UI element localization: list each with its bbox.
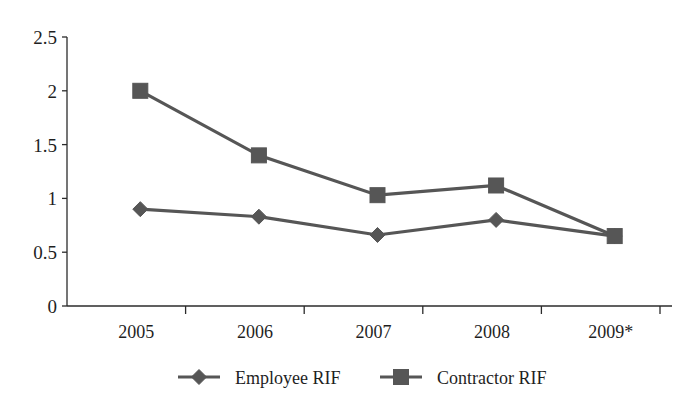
x-axis-tick-label: 2008: [474, 322, 510, 342]
square-marker-icon: [370, 188, 385, 203]
square-marker-icon: [489, 178, 504, 193]
y-axis-tick-label: 1.5: [33, 135, 57, 156]
y-axis-tick-label: 0.5: [33, 242, 57, 263]
square-marker-icon: [394, 370, 409, 385]
chart-background: [0, 0, 684, 412]
square-marker-icon: [607, 229, 622, 244]
square-marker-icon: [133, 83, 148, 98]
y-axis-tick-label: 0: [48, 296, 58, 317]
y-axis-tick-label: 2.5: [33, 27, 57, 48]
line-chart-figure: 00.511.522.5 20052006200720082009* Emplo…: [0, 0, 684, 412]
square-marker-icon: [251, 148, 266, 163]
y-axis-tick-label: 1: [48, 188, 58, 209]
chart-svg: 00.511.522.5 20052006200720082009* Emplo…: [0, 0, 684, 412]
y-axis-tick-label: 2: [48, 81, 58, 102]
x-axis-tick-label: 2007: [356, 322, 392, 342]
x-axis-tick-label: 2009*: [588, 322, 633, 342]
legend-label: Employee RIF: [235, 368, 341, 388]
x-axis-tick-label: 2006: [237, 322, 273, 342]
legend-label: Contractor RIF: [437, 368, 547, 388]
x-axis-tick-label: 2005: [118, 322, 154, 342]
legend-item: Contractor RIF: [380, 368, 547, 388]
